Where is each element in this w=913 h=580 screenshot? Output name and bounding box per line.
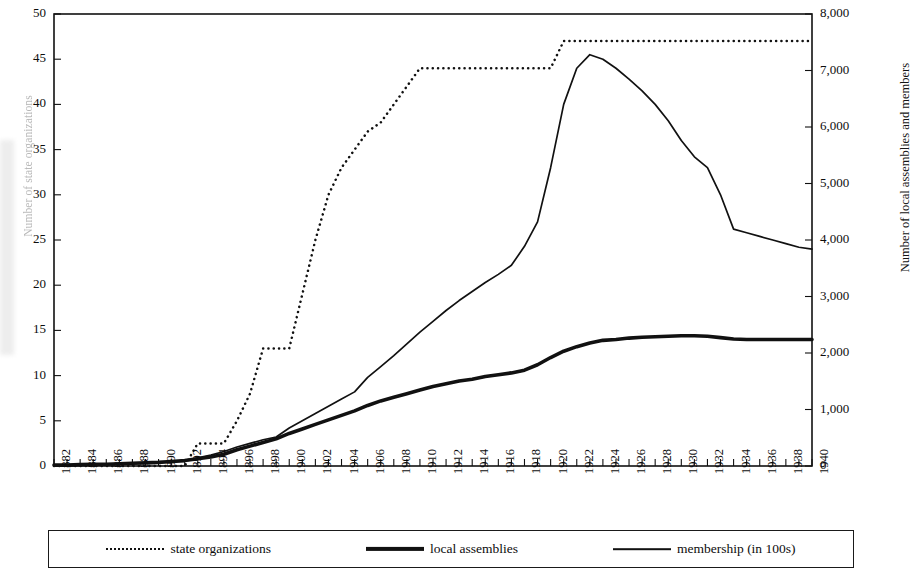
x-axis-tick-label: 1934 (739, 449, 754, 474)
chart-legend: state organizationslocal assembliesmembe… (48, 530, 854, 568)
x-axis-tick-label: 1922 (582, 449, 597, 474)
left-axis-tick-label: 35 (12, 141, 46, 157)
x-axis-tick-label: 1900 (294, 449, 309, 474)
x-axis-tick-label: 1888 (137, 449, 152, 474)
x-axis-tick-label: 1918 (529, 449, 544, 474)
right-axis-tick-label: 8,000 (820, 5, 868, 21)
left-axis-tick-label: 25 (12, 231, 46, 247)
legend-item[interactable]: state organizations (106, 541, 271, 557)
legend-swatch-thin (613, 543, 671, 555)
right-axis-tick-label: 4,000 (820, 231, 868, 247)
legend-item[interactable]: local assemblies (366, 541, 518, 557)
x-axis-tick-label: 1886 (111, 449, 126, 474)
x-axis-tick-label: 1906 (373, 449, 388, 474)
x-axis-tick-label: 1882 (59, 449, 74, 474)
x-axis-tick-label: 1892 (190, 449, 205, 474)
x-axis-tick-label: 1912 (451, 449, 466, 474)
legend-swatch-dotted (106, 543, 164, 555)
x-axis-tick-label: 1910 (425, 449, 440, 474)
x-axis-tick-label: 1926 (634, 449, 649, 474)
left-axis-tick-label: 20 (12, 276, 46, 292)
x-axis-tick-label: 1924 (608, 449, 623, 474)
left-axis-tick-label: 0 (12, 457, 46, 473)
legend-label: membership (in 100s) (677, 541, 795, 557)
right-axis-tick-label: 6,000 (820, 118, 868, 134)
left-axis-tick-label: 5 (12, 412, 46, 428)
right-axis-tick-label: 7,000 (820, 62, 868, 78)
x-axis-tick-label: 1940 (817, 449, 832, 474)
x-axis-tick-label: 1930 (686, 449, 701, 474)
legend-row: state organizationslocal assembliesmembe… (49, 531, 853, 567)
right-axis-tick-label: 2,000 (820, 344, 868, 360)
left-axis-tick-label: 15 (12, 321, 46, 337)
x-axis-tick-label: 1916 (503, 449, 518, 474)
legend-label: state organizations (170, 541, 271, 557)
series-line-dotted (54, 41, 812, 466)
x-axis-tick-label: 1914 (477, 449, 492, 474)
left-axis-tick-label: 40 (12, 95, 46, 111)
right-axis-tick-label: 5,000 (820, 175, 868, 191)
left-axis-tick-label: 10 (12, 367, 46, 383)
x-axis-tick-label: 1932 (712, 449, 727, 474)
x-axis-tick-label: 1902 (320, 449, 335, 474)
left-axis-tick-label: 45 (12, 50, 46, 66)
legend-label: local assemblies (430, 541, 518, 557)
x-axis-tick-label: 1936 (765, 449, 780, 474)
x-axis-tick-label: 1884 (85, 449, 100, 474)
legend-item[interactable]: membership (in 100s) (613, 541, 795, 557)
x-axis-tick-label: 1908 (399, 449, 414, 474)
x-axis-tick-label: 1898 (268, 449, 283, 474)
plot-frame (54, 14, 812, 466)
right-axis-tick-label: 3,000 (820, 288, 868, 304)
left-axis-tick-label: 30 (12, 186, 46, 202)
x-axis-tick-label: 1928 (660, 449, 675, 474)
x-axis-tick-label: 1894 (216, 449, 231, 474)
legend-swatch-thick (366, 543, 424, 555)
x-axis-tick-label: 1904 (347, 449, 362, 474)
series-line-thin (54, 55, 812, 465)
x-axis-tick-label: 1890 (164, 449, 179, 474)
right-axis-tick-label: 1,000 (820, 401, 868, 417)
left-axis-tick-label: 50 (12, 5, 46, 21)
series-line-thick (54, 336, 812, 465)
x-axis-tick-label: 1920 (556, 449, 571, 474)
x-axis-tick-label: 1938 (791, 449, 806, 474)
right-axis-title: Number of local assemblies and members (898, 53, 913, 283)
x-axis-tick-label: 1896 (242, 449, 257, 474)
